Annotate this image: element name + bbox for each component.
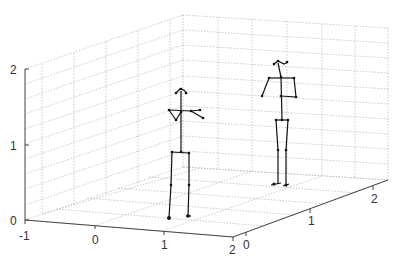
x-tick-1: 1 xyxy=(161,238,168,252)
x-axis xyxy=(25,220,233,237)
y-tick-2: 2 xyxy=(371,192,378,206)
axes xyxy=(25,69,388,241)
skeleton-1-joints xyxy=(167,88,204,220)
z-tick-2: 2 xyxy=(10,63,17,77)
y-tick-1: 1 xyxy=(308,214,315,228)
z-tick-0: 0 xyxy=(10,214,17,228)
grid-lines xyxy=(25,15,388,237)
skeleton-1 xyxy=(169,89,203,218)
y-tick-0: 0 xyxy=(243,238,250,252)
skeleton-2 xyxy=(262,61,296,186)
x-tick-neg1: -1 xyxy=(19,229,30,243)
x-tick-0: 0 xyxy=(92,233,99,247)
3d-skeleton-plot: 2 1 0 -1 0 1 2 0 1 2 xyxy=(0,0,398,263)
tick-labels: 2 1 0 -1 0 1 2 0 1 2 xyxy=(10,63,378,257)
z-tick-1: 1 xyxy=(10,139,17,153)
skeleton-2-joints xyxy=(261,60,298,187)
x-tick-2: 2 xyxy=(229,243,236,257)
y-axis xyxy=(233,180,388,237)
